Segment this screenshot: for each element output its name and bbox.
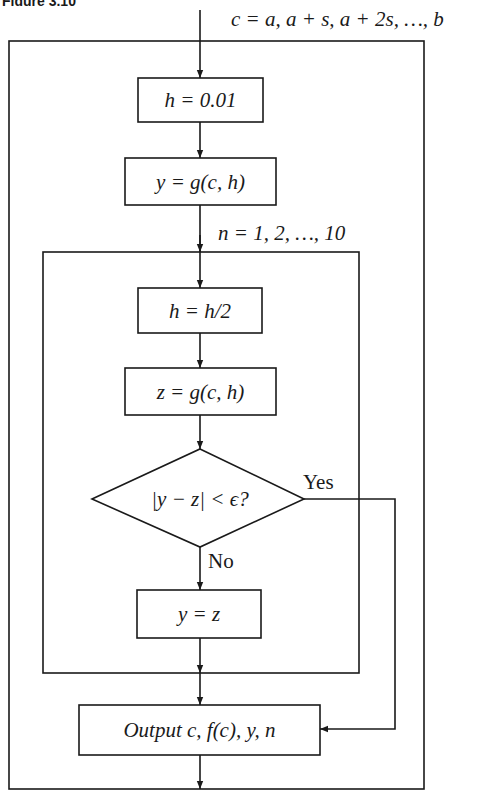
figure-caption: Figure 3.10 — [2, 0, 76, 9]
step-update-y: y = z — [137, 590, 261, 638]
svg-text:y = z: y = z — [176, 602, 220, 626]
step-init-y: y = g(c, h) — [125, 158, 276, 205]
step-init-h: h = 0.01 — [138, 78, 263, 122]
svg-text:Output c, f(c), y, n: Output c, f(c), y, n — [123, 718, 275, 742]
branch-yes-label: Yes — [303, 470, 334, 494]
svg-text:Figure 3.10: Figure 3.10 — [2, 0, 76, 9]
branch-no-label: No — [208, 549, 234, 573]
outer-loop-label: c = a, a + s, a + 2s, …, b — [231, 7, 444, 31]
svg-text:h = 0.01: h = 0.01 — [165, 88, 237, 112]
step-halve-h: h = h/2 — [138, 288, 262, 333]
svg-text:z = g(c, h): z = g(c, h) — [156, 380, 245, 404]
svg-text:|y − z| < ϵ?: |y − z| < ϵ? — [151, 487, 249, 511]
decision-convergence: |y − z| < ϵ? — [92, 449, 304, 547]
svg-text:h = h/2: h = h/2 — [169, 299, 232, 323]
step-compute-z: z = g(c, h) — [125, 368, 276, 415]
inner-loop-label: n = 1, 2, …, 10 — [218, 221, 346, 245]
flowchart: Figure 3.10 c = a, a + s, a + 2s, …, b h… — [0, 0, 485, 791]
arrow-yes-branch — [304, 499, 395, 729]
svg-text:y = g(c, h): y = g(c, h) — [154, 170, 245, 194]
step-output: Output c, f(c), y, n — [79, 705, 320, 755]
